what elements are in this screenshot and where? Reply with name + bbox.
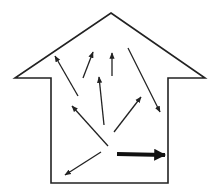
- arrow-2-arrow-icon: [83, 52, 93, 78]
- arrows-group: [55, 48, 165, 175]
- house-outline: [15, 13, 205, 183]
- arrow-8-arrow-icon: [65, 152, 101, 175]
- arrow-1-arrow-icon: [55, 56, 78, 96]
- house-diagram: [0, 0, 216, 192]
- arrow-5-arrow-icon: [99, 77, 104, 125]
- arrow-6-arrow-icon: [114, 97, 141, 132]
- arrow-4-arrow-icon: [128, 48, 160, 112]
- arrow-9-thick-arrow-icon: [117, 154, 165, 155]
